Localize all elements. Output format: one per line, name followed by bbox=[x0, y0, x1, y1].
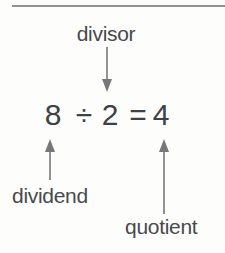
equation-dividend-value: 8 bbox=[38, 100, 68, 130]
division-diagram: divisor 8 ÷ 2 = 4 dividend quotient bbox=[0, 0, 225, 253]
divisor-arrow-down-icon bbox=[100, 47, 114, 92]
top-divider-line bbox=[12, 5, 225, 7]
equation-divisor-value: 2 bbox=[95, 100, 125, 130]
quotient-arrow-up-icon bbox=[157, 139, 171, 214]
dividend-label: dividend bbox=[12, 184, 88, 208]
equation-quotient-value: 4 bbox=[146, 100, 176, 130]
quotient-label: quotient bbox=[125, 215, 197, 239]
divisor-label: divisor bbox=[70, 22, 142, 46]
dividend-arrow-up-icon bbox=[43, 139, 57, 180]
